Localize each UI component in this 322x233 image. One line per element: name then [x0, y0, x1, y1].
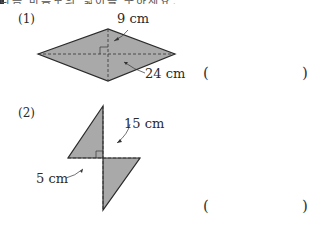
answer-1-open-paren: (	[203, 64, 209, 82]
answer-1-close-paren: )	[302, 64, 308, 82]
measurement-9cm: 9 cm	[117, 11, 149, 26]
answer-2-close-paren: )	[302, 197, 308, 215]
measurement-5cm: 5 cm	[36, 171, 68, 186]
measurement-24cm: 24 cm	[145, 66, 185, 81]
measurement-15cm: 15 cm	[124, 116, 164, 131]
problem-1-number: (1)	[18, 12, 35, 26]
answer-2-open-paren: (	[203, 197, 209, 215]
problem-2-number: (2)	[18, 106, 35, 120]
